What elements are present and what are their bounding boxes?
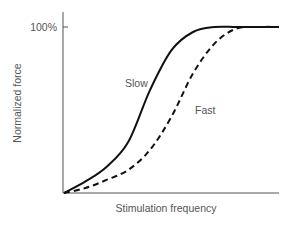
slow-curve [64,27,279,193]
slow-series-label: Slow [125,77,148,89]
x-axis-label: Stimulation frequency [116,202,217,214]
fast-series-label: Fast [195,104,215,116]
y-axis-label: Normalized force [11,63,23,142]
force-frequency-chart [0,0,292,227]
y-tick-label-100: 100% [30,21,57,33]
